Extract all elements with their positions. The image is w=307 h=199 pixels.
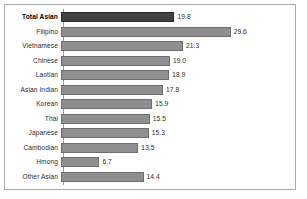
- bar: [61, 85, 163, 95]
- category-label: Hmong: [5, 158, 61, 166]
- bar: [61, 99, 152, 109]
- bar-row: Total Asian19.8: [5, 12, 295, 22]
- category-label: Total Asian: [5, 13, 61, 21]
- bar-value-label: 21.3: [186, 42, 199, 50]
- category-label: Other Asian: [5, 173, 61, 181]
- bar-row: Japanese15.3: [5, 128, 295, 138]
- bar-row: Cambodian13.5: [5, 143, 295, 153]
- category-label: Laotian: [5, 71, 61, 79]
- bar-value-label: 14.4: [147, 173, 160, 181]
- bar-row: Laotian18.9: [5, 70, 295, 80]
- bar-value-label: 15.9: [155, 100, 168, 108]
- chart-plot-area: Total Asian19.8Filipino29.6Vietnamese21.…: [5, 5, 295, 189]
- bar: [61, 41, 183, 51]
- bar-container: 19.0: [61, 56, 295, 66]
- bar-row: Korean15.9: [5, 99, 295, 109]
- bar-container: 6.7: [61, 157, 295, 167]
- bar-row: Chinese19.0: [5, 56, 295, 66]
- bar: [61, 157, 99, 167]
- bar-row: Thai15.5: [5, 114, 295, 124]
- category-label: Asian Indian: [5, 86, 61, 94]
- bar-container: 14.4: [61, 172, 295, 182]
- bar: [61, 143, 138, 153]
- bar-container: 15.9: [61, 99, 295, 109]
- bar: [61, 27, 231, 37]
- bar-container: 15.5: [61, 114, 295, 124]
- bar: [61, 12, 174, 22]
- bar-container: 29.6: [61, 27, 295, 37]
- bar-value-label: 17.8: [166, 86, 179, 94]
- bar-row: Asian Indian17.8: [5, 85, 295, 95]
- bar-value-label: 19.0: [173, 57, 186, 65]
- bar-value-label: 6.7: [102, 158, 111, 166]
- bar-value-label: 13.5: [141, 144, 154, 152]
- category-label: Thai: [5, 115, 61, 123]
- bar: [61, 70, 169, 80]
- category-label: Korean: [5, 100, 61, 108]
- bar-container: 21.3: [61, 41, 295, 51]
- bar: [61, 172, 144, 182]
- bar-row: Vietnamese21.3: [5, 41, 295, 51]
- bar-container: 18.9: [61, 70, 295, 80]
- bar: [61, 56, 170, 66]
- bar: [61, 128, 149, 138]
- bar-value-label: 18.9: [172, 71, 185, 79]
- category-label: Filipino: [5, 28, 61, 36]
- bar: [61, 114, 150, 124]
- category-label: Cambodian: [5, 144, 61, 152]
- chart-frame: Total Asian19.8Filipino29.6Vietnamese21.…: [4, 4, 296, 190]
- bar-container: 17.8: [61, 85, 295, 95]
- bar-value-label: 29.6: [234, 28, 247, 36]
- category-label: Vietnamese: [5, 42, 61, 50]
- bar-container: 15.3: [61, 128, 295, 138]
- category-label: Chinese: [5, 57, 61, 65]
- bar-row: Other Asian14.4: [5, 172, 295, 182]
- bar-value-label: 19.8: [177, 13, 190, 21]
- bar-value-label: 15.5: [153, 115, 166, 123]
- bar-value-label: 15.3: [152, 129, 165, 137]
- bar-row: Filipino29.6: [5, 27, 295, 37]
- bar-row: Hmong6.7: [5, 157, 295, 167]
- category-label: Japanese: [5, 129, 61, 137]
- bar-container: 13.5: [61, 143, 295, 153]
- bar-container: 19.8: [61, 12, 295, 22]
